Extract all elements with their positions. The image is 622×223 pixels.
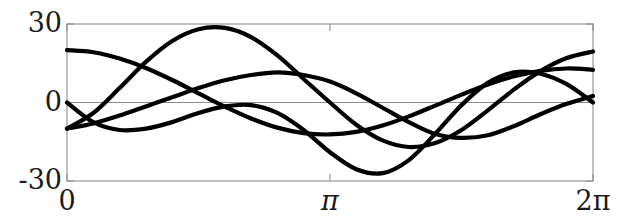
y-tick-label-0: 0 bbox=[45, 88, 62, 115]
x-tick-label-0: 0 bbox=[32, 187, 102, 214]
x-tick-label-2pi: 2π bbox=[558, 187, 622, 214]
y-tick-label-30: 30 bbox=[28, 9, 62, 36]
chart-figure: 30 0 -30 0 π 2π bbox=[0, 0, 622, 223]
x-tick-label-pi: π bbox=[295, 187, 365, 214]
data-curves bbox=[67, 27, 593, 173]
